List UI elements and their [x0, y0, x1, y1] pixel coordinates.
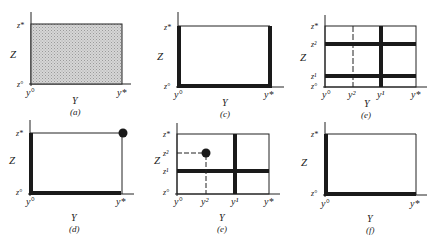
region-outline — [177, 134, 269, 194]
solution-point-dot — [202, 149, 211, 158]
y-zero-tick: y° — [320, 198, 329, 209]
diagram-canvas: z* z° Z y° y* Y (a) z* z° Z y° y* Y (c) … — [0, 0, 437, 248]
z2-tick: z² — [310, 40, 317, 49]
y1-tick: y¹ — [230, 196, 238, 207]
z-star-tick: z* — [163, 23, 171, 32]
panel-caption: (a) — [70, 107, 81, 117]
panel-caption: (e) — [361, 110, 371, 120]
z-star-tick: z* — [310, 22, 318, 31]
z1-tick: z¹ — [162, 167, 169, 176]
z-star-tick: z* — [15, 129, 23, 138]
y-star-tick: y* — [410, 89, 420, 100]
z-axis-label: Z — [9, 154, 16, 166]
panel-caption: (c) — [220, 109, 230, 119]
z-zero-tick: z° — [163, 82, 171, 91]
z-star-tick: z* — [310, 130, 318, 139]
y2-tick: y² — [347, 89, 356, 100]
panel-c: z* z² z¹ z° Z y° y² y¹ y* Y (e) — [300, 15, 427, 120]
y2-tick: y² — [200, 196, 209, 207]
panel-f: z* z° Z y° y* Y (f) — [301, 122, 427, 235]
y-axis-label: Y — [367, 213, 374, 224]
y-axis-label: Y — [72, 95, 79, 106]
y-zero-tick: y° — [321, 89, 330, 100]
y-axis-label: Y — [219, 212, 226, 223]
z-zero-tick: z° — [162, 188, 170, 197]
y-star-tick: y* — [263, 196, 273, 207]
z-axis-label: Z — [10, 48, 17, 60]
y-zero-tick: y° — [173, 196, 182, 207]
feasible-region-shaded — [31, 24, 122, 84]
z-axis-label: Z — [300, 51, 307, 63]
y-star-tick: y* — [116, 87, 126, 98]
z-axis-label: Z — [154, 154, 161, 166]
y-star-tick: y* — [263, 89, 273, 100]
y-axis-label: Y — [364, 98, 371, 109]
y-axis-label: Y — [222, 97, 229, 108]
panel-caption: (e) — [217, 224, 227, 234]
z-zero-tick: z° — [15, 188, 23, 197]
z-zero-tick: z° — [310, 189, 318, 198]
panel-d: z* z° Z y° y* Y (d) — [9, 120, 134, 234]
optimal-point-dot — [119, 129, 128, 138]
z-star-tick: z* — [162, 130, 170, 139]
z2-tick: z² — [162, 149, 169, 158]
panel-b: z* z° Z y° y* Y (c) — [157, 12, 284, 119]
z1-tick: z¹ — [310, 72, 317, 81]
z-zero-tick: z° — [16, 80, 24, 89]
z-axis-label: Z — [157, 50, 164, 62]
panel-caption: (d) — [69, 224, 80, 234]
panel-a: z* z° Z y° y* Y (a) — [10, 12, 131, 117]
z-star-tick: z* — [16, 21, 24, 30]
z-axis-label: Z — [301, 156, 308, 168]
y-zero-tick: y° — [25, 87, 34, 98]
panel-caption: (f) — [366, 225, 375, 235]
z-zero-tick: z° — [310, 82, 318, 91]
y-zero-tick: y° — [173, 89, 182, 100]
y-star-tick: y* — [409, 198, 419, 209]
y-star-tick: y* — [115, 196, 125, 207]
panel-e: z* z² z¹ z° Z y° y² y¹ y* Y (e) — [154, 123, 280, 234]
y-axis-label: Y — [71, 212, 78, 223]
y1-tick: y¹ — [376, 89, 384, 100]
y-zero-tick: y° — [25, 196, 34, 207]
